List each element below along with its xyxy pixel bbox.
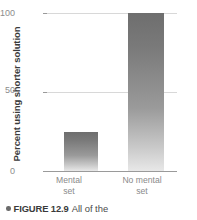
y-tick-label-0: 0 bbox=[0, 166, 15, 176]
bullet-icon bbox=[6, 206, 11, 211]
y-tick-label-100: 100 bbox=[0, 8, 15, 18]
x-tick-label-no-mental-set-line1: No mental bbox=[107, 175, 177, 186]
caption-text: All of the bbox=[72, 203, 108, 214]
caption-figure-number: FIGURE 12.9 bbox=[14, 203, 69, 214]
y-axis-tick-100 bbox=[43, 13, 47, 14]
x-tick-label-mental-set-line2: set bbox=[44, 186, 94, 197]
bar-no-mental-set bbox=[128, 13, 164, 171]
figure-caption: FIGURE 12.9All of the bbox=[6, 203, 196, 215]
plot-area bbox=[47, 13, 177, 172]
x-axis-baseline bbox=[43, 171, 177, 172]
x-tick-label-no-mental-set: No mental set bbox=[107, 175, 177, 196]
x-tick-label-mental-set: Mental set bbox=[44, 175, 94, 196]
y-axis-tick-50 bbox=[43, 92, 47, 93]
x-tick-label-no-mental-set-line2: set bbox=[107, 186, 177, 197]
bar-mental-set bbox=[64, 132, 98, 172]
y-tick-label-50: 50 bbox=[0, 85, 15, 95]
figure-12-9: Percent using shorter solution 100 50 0 … bbox=[0, 0, 197, 220]
x-tick-label-mental-set-line1: Mental bbox=[44, 175, 94, 186]
